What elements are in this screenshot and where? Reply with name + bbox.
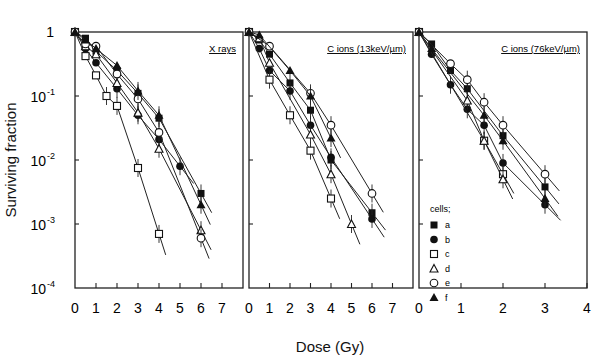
y-tick-label: 10-2	[30, 151, 55, 169]
x-tick-label: 1	[457, 300, 465, 316]
x-tick-label: 7	[218, 300, 226, 316]
svg-text:1: 1	[46, 24, 54, 40]
series-b	[71, 28, 193, 183]
svg-text:-2: -2	[47, 151, 55, 161]
panel-1: 01234567X rays	[71, 28, 244, 317]
x-tick-label: 2	[286, 300, 294, 316]
x-tick-label: 4	[155, 300, 163, 316]
x-tick-label: 0	[71, 300, 79, 316]
y-tick-label: 10-1	[30, 87, 55, 105]
svg-text:f: f	[445, 293, 448, 303]
svg-text:c: c	[445, 249, 450, 259]
x-tick-label: 1	[266, 300, 274, 316]
svg-text:-1: -1	[47, 87, 55, 97]
x-tick-label: 5	[176, 300, 184, 316]
svg-text:10: 10	[30, 217, 46, 233]
y-tick-label: 1	[46, 24, 54, 40]
x-tick-label: 3	[134, 300, 142, 316]
series-d	[71, 28, 211, 250]
y-tick-label: 10-3	[30, 215, 55, 233]
x-tick-label: 1	[92, 300, 100, 316]
y-axis-label: Surviving fraction	[2, 102, 19, 217]
legend-title: cells;	[430, 204, 451, 214]
x-axis-label: Dose (Gy)	[296, 338, 364, 355]
svg-text:a: a	[445, 220, 450, 230]
svg-text:b: b	[445, 235, 450, 245]
series-b	[245, 28, 384, 237]
x-tick-label: 4	[583, 300, 591, 316]
legend-item-e: e	[430, 278, 450, 288]
x-tick-label: 0	[245, 300, 253, 316]
survival-curves-chart: 110-110-210-310-401234567X rays01234567C…	[0, 0, 611, 364]
svg-text:10: 10	[30, 281, 46, 297]
panel-title: X rays	[209, 43, 236, 54]
x-tick-label: 6	[197, 300, 205, 316]
x-tick-label: 7	[389, 300, 397, 316]
svg-text:10: 10	[30, 89, 46, 105]
legend-item-b: b	[430, 235, 450, 245]
svg-text:-4: -4	[47, 279, 55, 289]
x-tick-label: 3	[541, 300, 549, 316]
x-tick-label: 2	[113, 300, 121, 316]
panel-2: 01234567C ions (13keV/µm)	[245, 28, 414, 317]
x-tick-label: 3	[307, 300, 315, 316]
series-c	[246, 29, 340, 219]
x-tick-label: 4	[327, 300, 335, 316]
x-tick-label: 5	[348, 300, 356, 316]
svg-text:-3: -3	[47, 215, 55, 225]
legend-item-a: a	[431, 220, 451, 230]
panel-3: 01234C ions (76keV/µm)	[415, 28, 592, 317]
legend-item-d: d	[430, 264, 450, 274]
series-c	[72, 29, 166, 255]
y-tick-label: 10-4	[30, 279, 55, 297]
panel-title: C ions (13keV/µm)	[327, 43, 406, 54]
series-a	[246, 29, 386, 231]
x-tick-label: 2	[499, 300, 507, 316]
x-tick-label: 0	[415, 300, 423, 316]
svg-text:e: e	[445, 278, 450, 288]
x-tick-label: 6	[368, 300, 376, 316]
svg-text:d: d	[445, 264, 450, 274]
legend-item-f: f	[430, 293, 449, 303]
legend-item-c: c	[431, 249, 451, 259]
svg-text:10: 10	[30, 153, 46, 169]
panel-title: C ions (76keV/µm)	[501, 43, 580, 54]
series-e	[71, 28, 209, 258]
